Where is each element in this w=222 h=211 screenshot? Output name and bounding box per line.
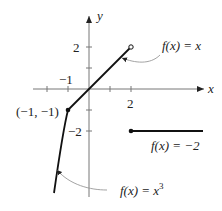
point-label: (−1, −1)	[16, 104, 59, 119]
closed-point-2-neg2	[129, 129, 134, 134]
piecewise-function-graph: x y −1 2 2 −2 (−1, −1) f(x) = x f(x) = −…	[0, 0, 222, 211]
callout-arrow-cubic	[57, 170, 107, 190]
closed-point-neg1-neg1	[66, 108, 71, 113]
y-axis-label: y	[95, 8, 103, 23]
label-fx-equals-x: f(x) = x	[162, 38, 201, 53]
tick-label-y-neg2: −2	[68, 124, 82, 139]
label-fx-equals-x-cubed: f(x) = x3	[120, 181, 164, 198]
linear-segment	[68, 49, 130, 111]
tick-label-x-neg1: −1	[59, 72, 73, 87]
x-axis-label: x	[207, 81, 214, 96]
tick-label-y-2: 2	[73, 40, 80, 55]
label-fx-cubed-base: f(x) = x	[120, 183, 159, 198]
cubic-curve	[54, 110, 68, 193]
label-fx-cubed-exponent: 3	[159, 181, 164, 191]
open-point-2-2	[129, 45, 133, 49]
tick-label-x-2: 2	[127, 96, 134, 111]
label-fx-equals-neg2: f(x) = −2	[151, 138, 200, 153]
callout-arrow-linear	[122, 55, 160, 62]
